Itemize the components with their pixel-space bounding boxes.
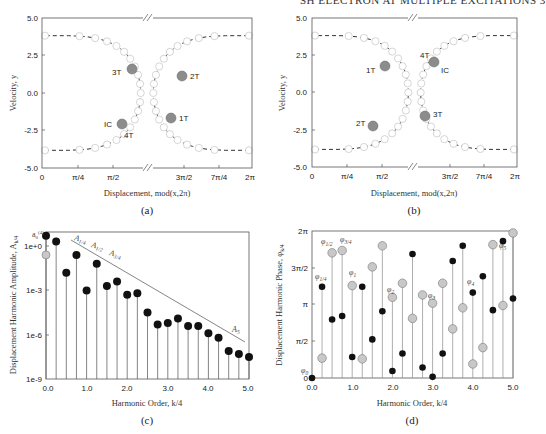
svg-text:1e-9: 1e-9 [26,375,43,384]
svg-text:-2.5: -2.5 [24,126,38,135]
panel-b: 5.0 2.5 0.0 -2.5 -5.0 0 π/4 π/2 3π/2 7π/… [277,14,520,217]
svg-text:-5.0: -5.0 [24,164,38,173]
svg-text:2.0: 2.0 [121,384,133,393]
plot-frame-a [42,18,252,168]
svg-text:0: 0 [40,173,45,182]
svg-text:7π/4: 7π/4 [211,173,228,182]
y-ticks-c: 1e+0 1e-3 1e-6 1e-9 [24,242,49,384]
caption-b: (b) [408,204,421,217]
svg-text:2π: 2π [510,172,520,181]
svg-text:2π: 2π [298,227,308,236]
y-ticks-d: 2π 3π/2 π π/2 0 [291,227,315,383]
x-ticks-d: 0.0 1.0 2.0 3.0 4.0 5.0 [306,383,519,392]
svg-text:2.5: 2.5 [27,51,39,60]
svg-text:5.0: 5.0 [27,14,39,23]
svg-text:4T: 4T [420,51,429,60]
svg-text:7π/4: 7π/4 [476,172,493,181]
y-axis-label-b: Velocity, y [277,74,287,111]
svg-text:1e-3: 1e-3 [26,286,43,295]
svg-text:π/4: π/4 [72,173,85,182]
svg-text:2π: 2π [245,173,255,182]
svg-text:3T: 3T [112,68,121,77]
svg-text:4T: 4T [124,131,133,140]
svg-text:5.0: 5.0 [296,14,308,23]
trajectory-b [311,32,517,153]
svg-text:1e-6: 1e-6 [26,331,43,340]
svg-text:1T: 1T [366,66,375,75]
svg-text:φ3/4: φ3/4 [340,235,352,245]
svg-text:-5.0: -5.0 [293,163,307,172]
y-axis-label-c: Displacement Harmonic Amplitude, Ak/4 [8,236,19,374]
svg-text:3π/2: 3π/2 [291,264,308,273]
svg-text:π/4: π/4 [341,172,354,181]
y-axis-label-d: Displacement Harmonic Phase, φk/4 [274,244,285,366]
panel-d: 2π 3π/2 π π/2 0 0.0 1.0 2.0 3.0 4.0 5.0 … [274,227,519,427]
svg-text:φ0: φ0 [301,366,308,376]
x-axis-label-b: Displacement, mod(x,2π) [371,188,458,198]
svg-text:φ3: φ3 [428,291,435,301]
svg-text:-2.5: -2.5 [293,126,307,135]
svg-text:3.0: 3.0 [162,384,174,393]
svg-text:IC: IC [441,66,449,75]
svg-text:φ4: φ4 [467,277,474,287]
phase-stems [309,229,518,382]
svg-text:φ1: φ1 [349,268,356,278]
svg-text:1e+0: 1e+0 [24,242,43,251]
caption-c: (c) [141,414,154,427]
svg-text:2T: 2T [356,119,365,128]
caption-d: (d) [406,414,419,427]
svg-text:φ1/2: φ1/2 [321,237,333,247]
x-axis-label-c: Harmonic Order, k/4 [112,398,183,408]
svg-text:π/2: π/2 [107,173,120,182]
svg-text:IC: IC [104,120,112,129]
svg-text:φ1/4: φ1/4 [315,272,327,282]
panel-a: 5.0 2.5 0.0 -2.5 -5.0 0 π/4 π/2 3π/2 7π/… [8,14,255,217]
svg-text:0.0: 0.0 [27,89,39,98]
svg-text:1.0: 1.0 [347,383,359,392]
panel-c: 1e+0 1e-3 1e-6 1e-9 0.0 1.0 2.0 3.0 4.0 … [8,230,254,427]
plot-frame-b [312,18,517,167]
svg-text:π: π [302,300,308,309]
svg-text:1T: 1T [179,114,188,123]
svg-text:0.0: 0.0 [306,383,318,392]
annotations-c: a0(4) A1/4 A1/2 A3/4 A5 [32,230,240,335]
svg-text:A1/2: A1/2 [89,240,104,253]
y-axis-label-a: Velocity, y [8,74,18,111]
svg-text:0.0: 0.0 [296,88,308,97]
svg-text:A3/4: A3/4 [107,248,122,261]
svg-text:3π/2: 3π/2 [176,173,193,182]
svg-text:4.0: 4.0 [467,383,479,392]
amplitude-stems [42,232,253,379]
trajectory-a [41,32,252,154]
svg-text:φ2: φ2 [387,285,394,295]
svg-text:1.0: 1.0 [81,384,93,393]
x-axis-label-d: Harmonic Order, k/4 [377,398,448,408]
svg-text:2.5: 2.5 [296,51,308,60]
svg-text:4.0: 4.0 [202,384,214,393]
svg-text:5.0: 5.0 [242,384,254,393]
svg-text:A1/4: A1/4 [72,233,87,246]
svg-text:π/2: π/2 [376,172,389,181]
svg-text:3π/2: 3π/2 [442,172,459,181]
svg-text:5.0: 5.0 [507,383,519,392]
svg-text:A5: A5 [231,325,240,335]
svg-text:3T: 3T [433,110,442,119]
svg-text:0.0: 0.0 [42,384,54,393]
svg-text:2T: 2T [190,72,199,81]
x-ticks-c: 0.0 1.0 2.0 3.0 4.0 5.0 [42,384,254,393]
svg-text:0: 0 [310,172,315,181]
svg-text:π/2: π/2 [296,337,309,346]
svg-text:3.0: 3.0 [427,383,439,392]
caption-a: (a) [141,204,154,217]
svg-text:2.0: 2.0 [387,383,399,392]
x-axis-label-a: Displacement, mod(x,2π) [104,188,191,198]
